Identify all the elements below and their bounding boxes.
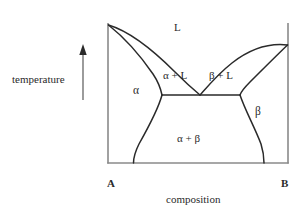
region-label-liquid: L [174, 22, 181, 33]
region-label-alpha-plus-beta: α + β [177, 133, 200, 144]
region-label-beta-plus-liquid: β + L [209, 70, 233, 81]
phase-diagram-figure: L α + L β + L α β α + β temperature comp… [0, 0, 307, 215]
x-axis-endpoint-label-a: A [107, 178, 115, 189]
temperature-increasing-arrow [79, 44, 86, 100]
region-label-beta: β [255, 106, 261, 118]
y-axis-label: temperature [12, 74, 65, 85]
x-axis-endpoint-label-b: B [281, 178, 288, 189]
region-label-alpha: α [133, 85, 139, 97]
x-axis-label: composition [166, 194, 220, 205]
solvus-alpha-curve [134, 95, 163, 163]
liquidus-left-curve [109, 25, 201, 95]
region-label-alpha-plus-liquid: α + L [163, 70, 187, 81]
